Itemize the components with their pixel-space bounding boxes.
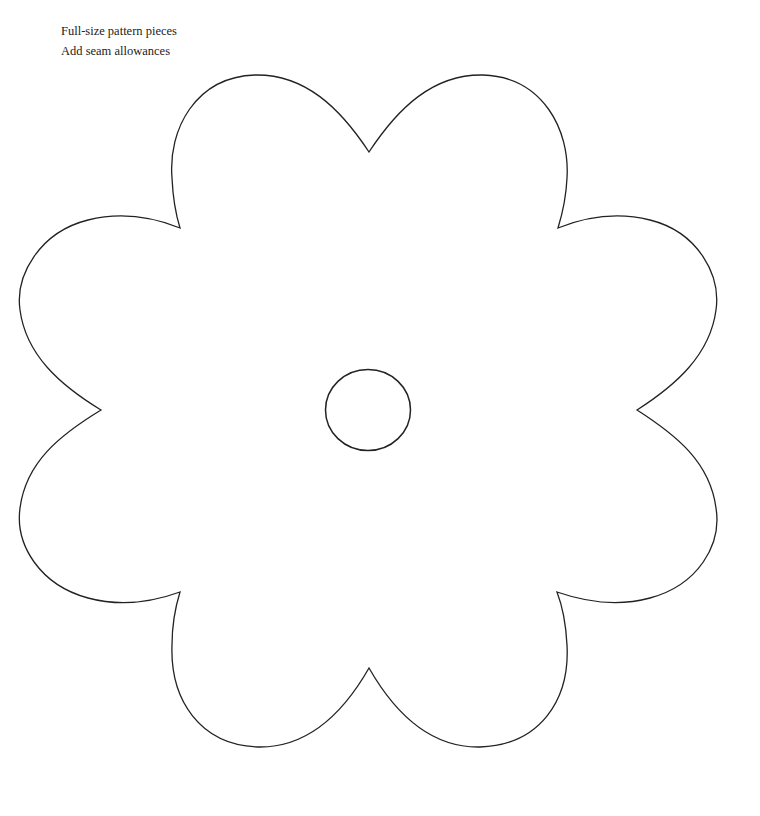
center-circle — [326, 370, 411, 451]
flower-pattern-drawing — [0, 0, 760, 816]
flower-outline — [19, 75, 717, 747]
